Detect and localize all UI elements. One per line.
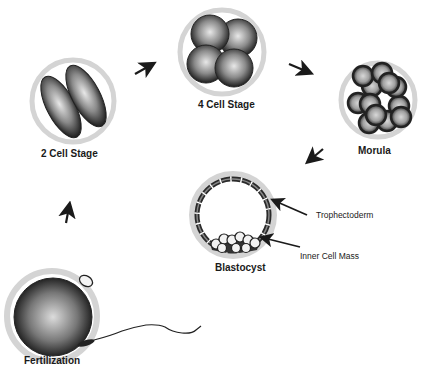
inner-cell-mass-label: Inner Cell Mass bbox=[300, 251, 359, 261]
trophectoderm-label: Trophectoderm bbox=[316, 210, 373, 220]
two-cell-stage bbox=[32, 59, 114, 143]
trophectoderm-pointer bbox=[275, 201, 307, 215]
polar-body bbox=[77, 273, 94, 289]
blastocyst-label: Blastocyst bbox=[215, 262, 266, 273]
blastocyst bbox=[192, 174, 307, 256]
arrow-2cell-to-4cell bbox=[135, 65, 151, 74]
arrow-4cell-to-morula bbox=[289, 64, 308, 72]
inner-cell-mass-pointer bbox=[264, 238, 300, 247]
morula-label: Morula bbox=[358, 145, 391, 156]
fertilization-label: Fertilization bbox=[24, 355, 80, 366]
arrow-fertilization-to-2cell bbox=[66, 207, 69, 223]
arrow-morula-to-blastocyst bbox=[310, 149, 323, 160]
two-cell-stage-label: 2 Cell Stage bbox=[41, 148, 98, 159]
four-cell-stage-label: 4 Cell Stage bbox=[198, 99, 255, 110]
fertilization bbox=[7, 271, 201, 361]
four-cell-stage bbox=[180, 10, 264, 94]
morula bbox=[341, 63, 415, 137]
embryo-development-diagram bbox=[0, 0, 434, 377]
